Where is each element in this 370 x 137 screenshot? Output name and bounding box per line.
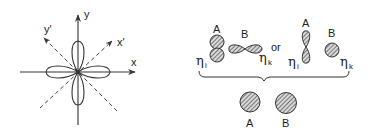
label-atom-b: B: [241, 28, 248, 40]
label-atom-b: B: [282, 117, 289, 129]
group-top-right: A B η i η k: [288, 17, 354, 71]
group-bottom: A B: [240, 92, 297, 129]
eta-i-subscript: i: [205, 61, 207, 70]
group-top-left: A B η i η k: [196, 23, 273, 70]
eta-k-subscript: k: [349, 62, 354, 71]
label-atom-a: A: [213, 23, 221, 35]
eta-k-symbol: η: [259, 50, 267, 65]
atom-b-horizontal-lobes: [229, 45, 262, 53]
label-atom-a: A: [246, 117, 254, 129]
orbital-interaction-diagram: A B η i η k or A B η i η k: [196, 17, 354, 129]
atom-b-sphere: [276, 93, 297, 114]
label-x: x: [131, 56, 137, 68]
label-atom-a: A: [302, 17, 310, 29]
eta-k-subscript: k: [268, 58, 273, 67]
or-text: or: [271, 41, 281, 53]
atom-b-sphere: [325, 43, 339, 57]
dashed-axis-y-prime: [44, 38, 117, 111]
atom-a-upper-sphere: [210, 35, 224, 49]
atom-a-lower-sphere: [210, 48, 224, 62]
atom-a-vertical-lobes: [302, 31, 310, 63]
atom-a-sphere: [240, 92, 260, 112]
label-atom-b: B: [328, 27, 335, 39]
d-orbital-diagram: y x y' x': [20, 8, 137, 125]
eta-k-symbol: η: [340, 54, 348, 69]
eta-i-symbol: η: [288, 54, 296, 69]
diagram-canvas: y x y' x' A B η i η k or A B η i η k: [0, 0, 370, 137]
curly-brace: [199, 71, 349, 81]
label-x-prime: x': [117, 36, 125, 48]
eta-i-symbol: η: [196, 53, 204, 68]
label-y-prime: y': [44, 23, 52, 35]
eta-i-subscript: i: [297, 62, 299, 71]
label-y: y: [84, 8, 90, 20]
